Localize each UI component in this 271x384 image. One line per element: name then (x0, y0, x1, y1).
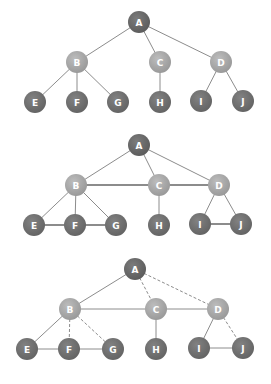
node-label-I: I (197, 344, 200, 354)
node-label-G: G (112, 221, 119, 231)
node-label-G: G (109, 345, 116, 355)
diagram-graph: ABCDEFGHIJ (23, 134, 252, 236)
graph-diagrams: ABCDEFGHIJABCDEFGHIJABCDEFGHIJ (0, 0, 271, 384)
node-label-J: J (240, 97, 244, 107)
node-label-B: B (73, 181, 80, 191)
diagram-spanning-tree: ABCDEFGHIJ (16, 258, 254, 360)
node-label-F: F (66, 345, 72, 355)
node-label-E: E (32, 98, 38, 108)
node-label-A: A (132, 265, 139, 275)
node-label-G: G (114, 98, 121, 108)
diagram-tree: ABCDEFGHIJ (24, 11, 254, 113)
node-label-C: C (156, 181, 163, 191)
node-label-B: B (67, 305, 74, 315)
node-label-D: D (215, 181, 222, 191)
node-label-A: A (136, 141, 143, 151)
node-label-C: C (157, 58, 164, 68)
edge-A-B (77, 22, 139, 62)
node-label-F: F (74, 98, 80, 108)
edge-A-B (76, 145, 139, 185)
node-label-C: C (153, 305, 160, 315)
node-label-I: I (198, 220, 201, 230)
node-label-H: H (155, 221, 163, 231)
node-label-D: D (214, 305, 221, 315)
node-label-I: I (199, 97, 202, 107)
node-label-B: B (74, 58, 81, 68)
edge-A-B (70, 269, 135, 309)
node-label-J: J (238, 220, 242, 230)
node-label-H: H (156, 98, 164, 108)
node-label-A: A (136, 18, 143, 28)
node-label-E: E (31, 221, 37, 231)
node-label-F: F (72, 221, 78, 231)
node-label-J: J (240, 344, 244, 354)
node-label-E: E (24, 345, 30, 355)
node-label-H: H (152, 345, 160, 355)
node-label-D: D (217, 58, 224, 68)
